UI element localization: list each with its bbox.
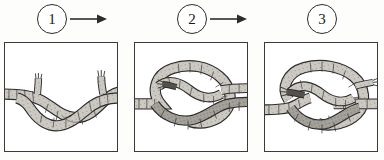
step-3-illustration: [265, 43, 377, 151]
step-1-illustration: [5, 43, 117, 151]
step-3-badge: 3: [307, 4, 337, 34]
step-1-panel: [4, 42, 118, 152]
step-2-illustration: [135, 43, 247, 151]
step-3-panel: [264, 42, 378, 152]
step-2-panel: [134, 42, 248, 152]
knot-sequence-figure: 1 2 3: [0, 0, 384, 160]
step-1-badge: 1: [37, 4, 67, 34]
arrow-step-1-to-2-icon: [70, 12, 108, 26]
step-1-number: 1: [48, 11, 56, 26]
step-3-number: 3: [318, 11, 326, 26]
step-2-badge: 2: [177, 4, 207, 34]
step-2-number: 2: [188, 11, 196, 26]
arrow-step-2-to-3-icon: [210, 12, 248, 26]
